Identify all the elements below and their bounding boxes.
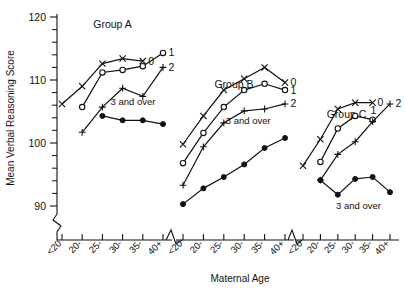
marker-filled-circle [318, 178, 323, 183]
marker-x [200, 113, 206, 119]
series-label-1: 1 [169, 46, 175, 58]
marker-open-circle [318, 159, 323, 164]
series-label-2: 2 [291, 97, 297, 109]
series-line [183, 138, 285, 204]
marker-filled-circle [370, 175, 375, 180]
x-axis-title: Maternal Age [211, 273, 270, 284]
marker-plus [241, 107, 248, 114]
marker-filled-circle [283, 135, 288, 140]
series-label-3-and-over: 3 and over [226, 115, 271, 126]
marker-open-circle [160, 50, 165, 55]
y-axis: 90100110120 [28, 11, 61, 240]
marker-filled-circle [262, 146, 267, 151]
y-axis-break-icon [53, 214, 61, 240]
chart-svg: 90100110120Mean Verbal Reasoning Score<2… [0, 0, 405, 303]
marker-filled-circle [161, 122, 166, 127]
marker-open-circle [353, 113, 358, 118]
x-axis-panel-2: <2020-25-30-35-40+ [165, 234, 294, 257]
marker-x [300, 163, 306, 169]
marker-filled-circle [242, 162, 247, 167]
marker-filled-circle [353, 176, 358, 181]
marker-x [180, 141, 186, 147]
x-axis-panel-3: <2020-25-30-35-40+ [285, 234, 399, 257]
marker-x [59, 101, 65, 107]
series-group-a-3-and-over: 3 and over [100, 96, 166, 126]
marker-filled-circle [140, 118, 145, 123]
marker-open-circle [100, 70, 105, 75]
series-label-3-and-over: 3 and over [110, 96, 155, 107]
series-group-c-3-and-over: 3 and over [318, 175, 393, 211]
marker-x [262, 64, 268, 70]
marker-filled-circle [388, 190, 393, 195]
series-label-2: 2 [169, 61, 175, 73]
y-tick-label: 120 [28, 11, 46, 23]
marker-x [79, 83, 85, 89]
marker-filled-circle [100, 113, 105, 118]
marker-filled-circle [201, 186, 206, 191]
y-tick-label: 100 [28, 137, 46, 149]
marker-open-circle [221, 104, 226, 109]
marker-filled-circle [120, 118, 125, 123]
series-line [320, 116, 372, 162]
marker-filled-circle [335, 192, 340, 197]
series-label-3-and-over: 3 and over [336, 200, 381, 211]
y-axis-title: Mean Verbal Reasoning Score [5, 50, 16, 186]
marker-open-circle [262, 81, 267, 86]
x-axis-panel-1: <2020-25-30-35-40+ [44, 234, 172, 257]
marker-open-circle [335, 126, 340, 131]
series-label-2: 2 [396, 97, 402, 109]
marker-filled-circle [221, 175, 226, 180]
marker-open-circle [120, 67, 125, 72]
marker-open-circle [140, 63, 145, 68]
marker-filled-circle [181, 202, 186, 207]
series-label-1: 1 [371, 104, 377, 116]
panel-title-1: Group A [93, 18, 132, 30]
marker-plus [261, 106, 268, 113]
y-tick-label: 110 [29, 74, 46, 86]
chart-figure: 90100110120Mean Verbal Reasoning Score<2… [0, 0, 405, 303]
marker-open-circle [282, 87, 287, 92]
series-label-0: 0 [378, 96, 384, 108]
marker-open-circle [180, 160, 185, 165]
series-line [102, 116, 163, 124]
marker-plus [180, 182, 187, 189]
marker-open-circle [242, 87, 247, 92]
marker-x [282, 79, 288, 85]
series-label-1: 1 [291, 84, 297, 96]
y-tick-label: 90 [34, 200, 46, 212]
marker-open-circle [80, 104, 85, 109]
marker-open-circle [201, 130, 206, 135]
marker-plus [282, 101, 289, 108]
marker-x [317, 136, 323, 142]
